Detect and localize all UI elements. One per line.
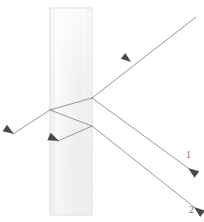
ray-diagram-canvas: [0, 0, 204, 222]
optics-ray-diagram-figure: 1 2: [0, 0, 204, 222]
arrowhead-incident-ray: [121, 53, 133, 65]
exit-ray-2: [92, 126, 194, 207]
arrowhead-exit-ray-1: [186, 165, 200, 178]
ray-group: [13, 17, 196, 207]
arrowhead-transmitted-ray-left: [3, 125, 17, 138]
ray-label-1: 1: [186, 150, 191, 160]
ray-label-2: 2: [189, 205, 194, 215]
transmitted-ray-left: [13, 110, 50, 134]
ray-label-1-text: 1: [186, 149, 191, 160]
exit-ray-1: [92, 98, 188, 168]
ray-label-2-text: 2: [189, 204, 194, 215]
incident-ray: [92, 17, 196, 98]
glass-slab: [50, 8, 92, 215]
